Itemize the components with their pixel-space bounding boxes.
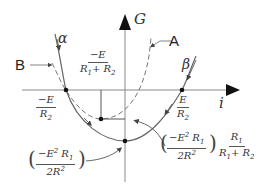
alpha-label: α xyxy=(58,31,67,45)
g-axis xyxy=(119,14,131,182)
g-axis-label: G xyxy=(134,12,146,27)
solid-min-point xyxy=(123,139,128,144)
min-left-paren-open: ( xyxy=(28,149,36,169)
right-intercept-label: E R2 xyxy=(177,95,189,122)
min-left-pointer xyxy=(86,149,120,161)
min-left-paren-close: ) xyxy=(78,149,86,169)
curve-b-label: B xyxy=(15,57,25,72)
min-right-paren-close: ) xyxy=(209,133,217,153)
left-intercept-point xyxy=(64,88,69,93)
min-left-label: −E2 R1 2R2 xyxy=(36,148,75,178)
vertex-x-label: −E R1+ R2 xyxy=(80,50,116,77)
vertex-x-den: R1+ R2 xyxy=(80,63,116,77)
beta-label: β xyxy=(182,57,190,71)
i-axis-label: i xyxy=(219,96,224,111)
right-intercept-point xyxy=(180,88,185,93)
vertex-x-num: −E xyxy=(88,50,108,63)
dashed-min-point xyxy=(99,117,104,122)
min-right-first-label: −E2 R1 2R2 xyxy=(167,132,206,162)
min-right-second-label: R1 R1+ R2 xyxy=(219,132,255,162)
curve-a-label: A xyxy=(169,33,179,48)
left-intercept-label: −E R2 xyxy=(36,95,56,122)
